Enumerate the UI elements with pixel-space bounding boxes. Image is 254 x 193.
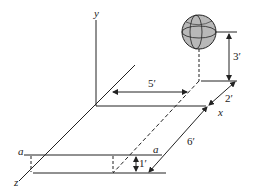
z-far-dimension-label: 6′ [187,135,195,147]
section-label-right: a [153,143,159,155]
z-far-dimension-arrow [149,107,207,172]
diagram-canvas: y x z 3′ 5′ 2′ 6′ 1′ a a [0,0,254,193]
ball-icon [182,15,216,49]
z-axis-label: z [13,176,19,188]
step-dimension-label: 1′ [139,157,147,169]
z-axis [19,65,135,181]
height-dimension-label: 3′ [233,50,241,62]
y-axis-label: y [93,7,99,19]
x-offset-dimension-label: 5′ [148,77,156,89]
z-near-dimension-label: 2′ [225,92,233,104]
x-axis-label: x [217,106,223,118]
section-label-left: a [18,145,24,157]
ground-projection-line [113,81,199,173]
